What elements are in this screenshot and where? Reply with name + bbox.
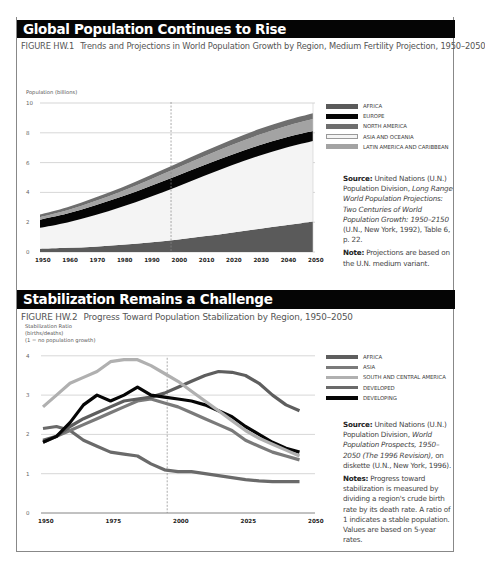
legend-item-africa: AFRICA: [326, 352, 446, 362]
source-text: Source: United Nations (U.N.) Population…: [343, 420, 455, 471]
legend-swatch: [326, 376, 358, 380]
svg-text:4: 4: [26, 353, 30, 359]
legend-label: AFRICA: [363, 354, 382, 360]
legend-label: DEVELOPED: [363, 385, 395, 391]
svg-text:1950: 1950: [38, 518, 54, 524]
legend-label: ASIA: [363, 364, 375, 370]
legend-swatch: [326, 366, 358, 370]
svg-text:2050: 2050: [308, 518, 324, 524]
note-text: Notes: Progress toward stabilization is …: [343, 474, 455, 545]
svg-text:2: 2: [26, 431, 30, 437]
legend-label: DEVELOPING: [363, 395, 397, 401]
legend-item-south-and-central-america: SOUTH AND CENTRAL AMERICA: [326, 372, 446, 382]
legend-swatch: [326, 396, 358, 400]
legend-item-developed: DEVELOPED: [326, 383, 446, 393]
legend-swatch: [326, 355, 358, 359]
legend-swatch: [326, 386, 358, 390]
legend-chart2: AFRICAASIASOUTH AND CENTRAL AMERICADEVEL…: [326, 352, 446, 403]
legend-item-asia: ASIA: [326, 362, 446, 372]
legend-item-developing: DEVELOPING: [326, 393, 446, 403]
svg-text:0: 0: [26, 510, 30, 516]
source-notes-chart2: Source: United Nations (U.N.) Population…: [343, 420, 455, 548]
legend-label: SOUTH AND CENTRAL AMERICA: [363, 374, 446, 380]
page-frame: Global Population Continues to Rise FIGU…: [16, 17, 454, 552]
svg-text:3: 3: [26, 392, 30, 398]
svg-text:2000: 2000: [173, 518, 189, 524]
svg-text:1: 1: [26, 471, 30, 477]
svg-text:1975: 1975: [106, 518, 122, 524]
svg-text:2025: 2025: [241, 518, 257, 524]
